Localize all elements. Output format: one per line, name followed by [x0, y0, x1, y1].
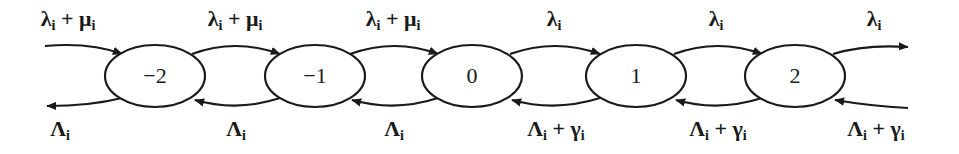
- edge-neg1-to-0: [350, 46, 438, 54]
- rate-label-top-1: λi + μi: [208, 6, 263, 33]
- rate-label-top-0: λi + μi: [41, 6, 96, 33]
- edge-2-to-1: [676, 98, 762, 106]
- rate-label-top-5: λi: [867, 6, 882, 33]
- rate-label-bottom-3: Λi + γi: [527, 116, 585, 143]
- rate-label-bottom-1: Λi: [226, 116, 246, 143]
- rate-label-bottom-2: Λi: [384, 116, 404, 143]
- state-label: 1: [631, 63, 642, 88]
- edge-0-to-neg1: [352, 98, 438, 106]
- edge-neg2-to-neg1: [192, 46, 280, 54]
- state-node-neg2: −2: [105, 45, 205, 107]
- edge-neg1-to-neg2: [195, 98, 280, 106]
- state-node-neg1: −1: [265, 45, 365, 107]
- edge-in-to-neg2: [45, 45, 122, 54]
- edge-1-to-0: [512, 98, 600, 106]
- rate-label-top-3: λi: [547, 6, 562, 33]
- state-transition-diagram: −2 −1 0 1 2 λi + μi λi + μi λi + μi λi λ…: [0, 0, 959, 154]
- edge-in-to-2: [835, 100, 908, 108]
- edge-0-to-1: [510, 46, 600, 54]
- edge-2-to-out: [833, 46, 908, 54]
- state-node-0: 0: [422, 45, 522, 107]
- rate-label-bottom-0: Λi: [50, 116, 70, 143]
- rate-label-bottom-5: Λi + γi: [847, 116, 905, 143]
- edge-neg2-to-out: [47, 98, 122, 106]
- state-label: 2: [790, 63, 801, 88]
- rate-label-bottom-4: Λi + γi: [689, 116, 747, 143]
- state-node-2: 2: [745, 45, 845, 107]
- rate-label-top-4: λi: [709, 6, 724, 33]
- rate-label-top-2: λi + μi: [366, 6, 421, 33]
- state-label: −2: [143, 63, 166, 88]
- edge-1-to-2: [674, 46, 762, 54]
- state-label: 0: [467, 63, 478, 88]
- state-label: −1: [303, 63, 326, 88]
- state-node-1: 1: [586, 45, 686, 107]
